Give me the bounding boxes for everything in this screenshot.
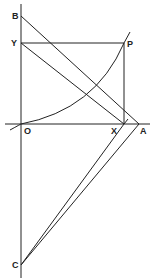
label-Y: Y xyxy=(11,38,17,48)
segment-CX-extension xyxy=(124,119,128,124)
label-A: A xyxy=(140,126,147,136)
segment-CA xyxy=(21,124,139,265)
label-B: B xyxy=(12,11,19,21)
label-P: P xyxy=(127,39,133,49)
label-C: C xyxy=(12,260,19,270)
segment-YX xyxy=(21,43,124,124)
label-X: X xyxy=(111,126,117,136)
label-O: O xyxy=(24,126,31,136)
geometry-diagram: B Y P O X A C xyxy=(0,0,153,280)
segment-CX xyxy=(21,124,124,265)
segment-BA xyxy=(21,16,139,124)
